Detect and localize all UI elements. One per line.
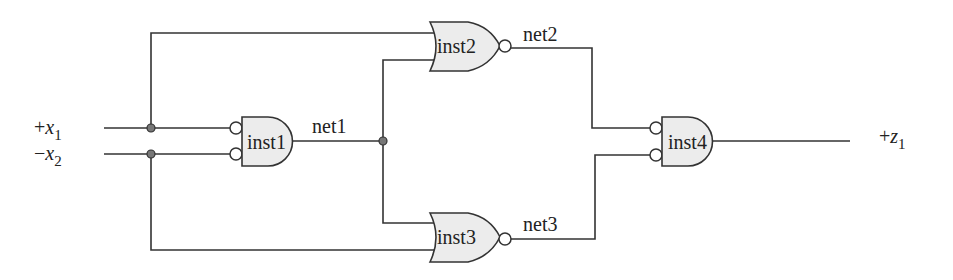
gate-label: inst1: [247, 131, 286, 153]
wire-x2-to-inst3: [151, 154, 436, 250]
inversion-bubble-icon: [499, 233, 511, 245]
inversion-bubble-icon: [650, 122, 662, 134]
gate-inst2: inst2: [430, 22, 511, 71]
junction-dot-x1: [147, 124, 155, 132]
input-label-x2: −x2: [34, 142, 62, 169]
svg-text:+x1: +x1: [34, 116, 62, 143]
svg-text:−x2: −x2: [34, 142, 62, 169]
svg-text:+z1: +z1: [879, 125, 906, 152]
gate-inst4: inst4: [650, 117, 712, 166]
junction-dot-net1: [379, 137, 387, 145]
net-label-net1: net1: [312, 115, 346, 137]
logic-circuit-diagram: +x1 −x2 inst1 net1 inst2 net2 inst3 net3: [0, 0, 953, 280]
inversion-bubble-icon: [650, 149, 662, 161]
inversion-bubble-icon: [230, 122, 242, 134]
inversion-bubble-icon: [499, 40, 511, 52]
wire-x1-to-inst2: [151, 33, 436, 128]
gate-inst3: inst3: [430, 213, 511, 262]
gate-label: inst4: [668, 131, 707, 153]
gate-label: inst2: [437, 35, 476, 57]
wire-net2: [511, 48, 650, 128]
wire-net1-to-inst3: [383, 141, 436, 223]
net-label-net2: net2: [523, 23, 557, 45]
output-label-z1: +z1: [879, 125, 906, 152]
junction-dot-x2: [147, 150, 155, 158]
gate-inst1: inst1: [230, 117, 292, 166]
net-label-net3: net3: [523, 213, 557, 235]
inversion-bubble-icon: [230, 148, 242, 160]
wire-net1-to-inst2: [383, 60, 436, 141]
gate-label: inst3: [437, 226, 476, 248]
input-label-x1: +x1: [34, 116, 62, 143]
